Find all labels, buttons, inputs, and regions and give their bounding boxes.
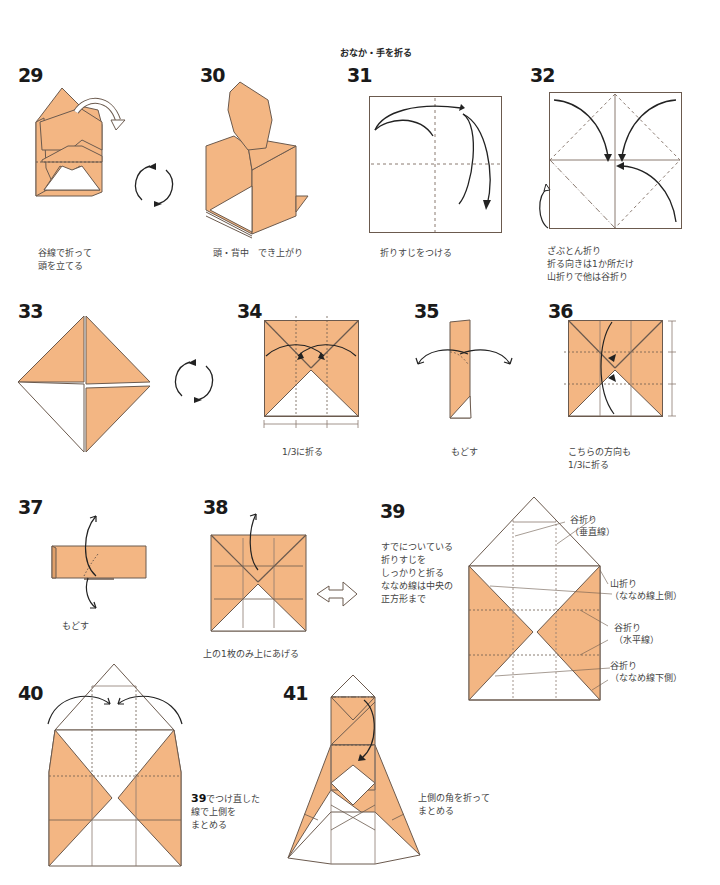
step-41-diagram [0, 0, 720, 885]
step-41-caption: 上側の角を折って まとめる [418, 792, 490, 818]
